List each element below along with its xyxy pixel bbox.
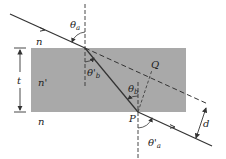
- label-thickness: t: [17, 75, 22, 86]
- glass-slab: [31, 48, 186, 112]
- refraction-slab-diagram: n n' n t θa θ'b θb θ'a P Q d: [0, 0, 226, 159]
- label-n-top: n: [36, 36, 42, 47]
- label-theta-a: θa: [70, 19, 80, 32]
- label-point-P: P: [128, 113, 136, 124]
- label-displacement: d: [203, 118, 209, 129]
- label-n-slab: n': [38, 77, 47, 88]
- angle-arc-theta-a: [72, 32, 85, 42]
- label-point-Q: Q: [151, 59, 159, 70]
- label-n-bottom: n: [38, 116, 44, 127]
- angle-arc-theta-a-prime: [138, 118, 152, 128]
- label-theta-a-prime: θ'a: [148, 137, 161, 150]
